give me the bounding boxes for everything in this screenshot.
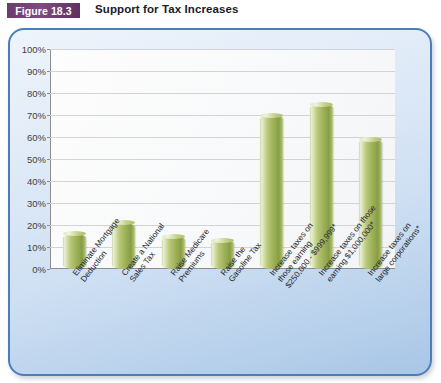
y-axis-tick-label: 0%: [32, 264, 46, 275]
figure-number-badge: Figure 18.3: [7, 3, 80, 18]
y-axis-tick-label: 60%: [27, 132, 46, 143]
chart-panel: 100%90%80%70%60%50%40%30%20%10%0% Elimin…: [8, 28, 432, 376]
y-axis-tick-label: 20%: [27, 220, 46, 231]
bar-top-cap: [260, 113, 283, 118]
y-axis-tick-label: 50%: [27, 154, 46, 165]
bar: [260, 115, 283, 269]
y-axis-tick-label: 90%: [27, 66, 46, 77]
y-axis-tick-label: 70%: [27, 110, 46, 121]
bar-top-cap: [359, 137, 382, 142]
y-axis-tick-label: 100%: [22, 44, 46, 55]
bar-top-cap: [310, 102, 333, 107]
y-axis-tick-label: 30%: [27, 198, 46, 209]
y-axis-tick-label: 10%: [27, 242, 46, 253]
figure-title: Support for Tax Increases: [95, 3, 239, 15]
bar-top-cap: [63, 231, 86, 236]
y-axis-tick-label: 80%: [27, 88, 46, 99]
category-axis-labels: Eliminate MortgageDeductionCreate a Nati…: [50, 269, 395, 369]
y-axis-tick-label: 40%: [27, 176, 46, 187]
figure-header: Figure 18.3 Support for Tax Increases: [0, 0, 441, 26]
